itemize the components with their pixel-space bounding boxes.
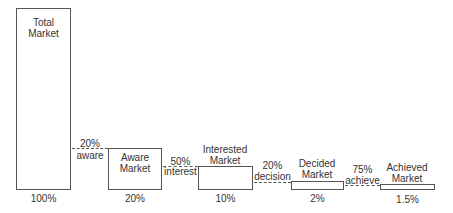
stage-name-line2: Market <box>108 163 162 174</box>
achieved-market-share: 1.5% <box>380 194 435 205</box>
stage-name-line1: Total <box>16 17 71 28</box>
transition-decision-connector <box>254 182 291 183</box>
interested-market-share: 10% <box>198 193 253 204</box>
aware-market-share: 20% <box>108 193 162 204</box>
interested-market-label: Interested Market <box>194 144 256 166</box>
stage-name-line1: Aware <box>108 152 162 163</box>
decided-market-box <box>291 181 344 190</box>
decided-market-label: Decided Market <box>288 158 346 180</box>
achieved-market-label: Achieved Market <box>377 162 437 184</box>
transition-achieve-rate: 75% <box>344 164 381 175</box>
decided-market-share: 2% <box>291 193 344 204</box>
stage-name-line2: Market <box>377 173 437 184</box>
achieved-market-box <box>380 184 435 190</box>
total-market-share: 100% <box>16 193 71 204</box>
interested-market-box <box>198 166 253 190</box>
stage-name-line2: Market <box>16 28 71 39</box>
stage-name-line2: Market <box>288 169 346 180</box>
transition-achieve-connector <box>345 185 380 186</box>
stage-name-line1: Interested <box>194 144 256 155</box>
transition-decision-rate: 20% <box>254 160 291 171</box>
stage-name-line2: Market <box>194 155 256 166</box>
total-market-label: Total Market <box>16 17 71 39</box>
transition-aware-label: aware <box>70 150 110 161</box>
stage-name-line1: Decided <box>288 158 346 169</box>
aware-market-label: Aware Market <box>108 152 162 174</box>
transition-interest-label: interest <box>161 166 200 177</box>
transition-aware-connector <box>72 148 108 149</box>
stage-name-line1: Achieved <box>377 162 437 173</box>
